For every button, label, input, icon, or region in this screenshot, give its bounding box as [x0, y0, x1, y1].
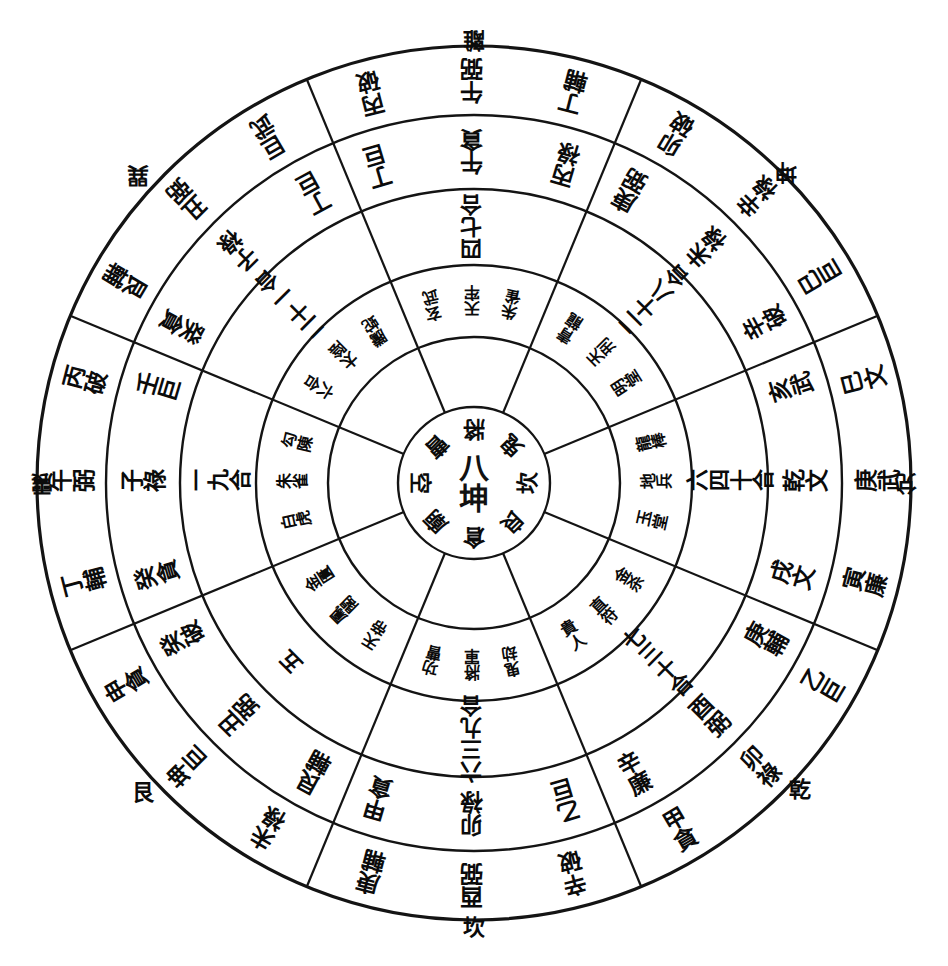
ring4-cell-S-1: 卯祿: [462, 791, 486, 837]
trigram-label-qian: 乾: [789, 779, 811, 801]
trigram-label-zhen: 震: [31, 472, 53, 494]
ring2-cell-N-1: 天牢: [466, 285, 483, 317]
ring5-cell-N-1: 午弼: [462, 58, 486, 104]
trigram-label-dui: 兌: [895, 472, 917, 494]
ring3-cell-S: 六三九合: [463, 695, 486, 783]
trigram-label-li: 離: [463, 29, 485, 51]
trigram-label-xun: 巽: [127, 164, 149, 186]
ring5-cell-E-1: 庚武: [853, 471, 899, 495]
center-ring-label-2: 坎: [517, 472, 539, 494]
ring4-cell-N-1: 午貪: [462, 129, 486, 175]
ring3-cell-N: 四七合: [463, 194, 486, 260]
ring3-cell-E: 六四十合: [686, 472, 774, 495]
ring5-cell-W-1: 午弼: [48, 471, 94, 495]
trigram-label-kan: 坎: [463, 917, 485, 939]
ring5-cell-S-1: 酉弼: [462, 863, 486, 909]
center-ring-label-0: 將: [463, 418, 485, 440]
trigram-label-kun: 坤: [775, 161, 797, 183]
trigram-label-gen: 艮: [132, 782, 154, 804]
ring2-cell-S-1: 將軍: [466, 649, 483, 681]
ring3-cell-W: 一九合: [185, 472, 251, 495]
ring2-cell-E-1: 地兵: [640, 475, 672, 492]
ring2-cell-W-1: 朱雀: [276, 475, 308, 492]
luopan-diagram: 丁輔午弼丙破巳巨辛祿卯破寅廉庚武巳文甲貪卯祿乙巨辛破酉弼庚輔未祿坤巨申貪丁輔午弼…: [0, 0, 948, 966]
center-ring-label-4: 倉: [463, 526, 485, 548]
center-core-text: 八坤: [459, 452, 489, 515]
ring4-cell-E-1: 乾文: [782, 471, 828, 495]
center-ring-label-6: 空: [409, 472, 431, 494]
ring4-cell-W-1: 子祿: [120, 471, 166, 495]
